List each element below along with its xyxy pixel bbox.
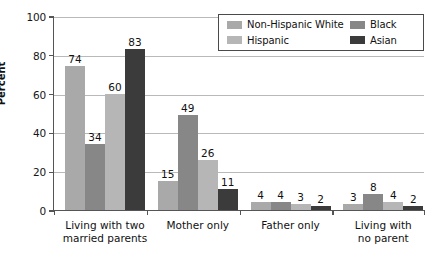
legend-entry: Black [350,19,433,30]
x-axis-category-label-line: Living with [323,219,436,232]
bar-value-label: 60 [108,82,121,93]
x-axis-tick-mark [240,210,241,215]
y-axis-tick-mark [49,133,54,134]
bar: 26 [198,160,218,210]
y-axis-tick-mark [49,172,54,173]
legend-label: Asian [370,35,397,46]
bar: 83 [125,49,145,210]
bar: 4 [383,202,403,210]
legend-swatch [350,21,365,29]
gridline [54,56,424,57]
y-axis-tick-label: 80 [8,50,46,62]
bar-value-label: 4 [257,190,264,201]
y-axis-title: Percent [0,42,7,126]
bar-value-label: 4 [277,190,284,201]
y-axis-tick-mark [49,16,54,17]
bar-value-label: 34 [88,132,101,143]
legend-swatch [350,36,365,44]
bar-value-label: 11 [221,177,234,188]
y-axis-tick-label: 0 [8,205,46,217]
bar: 8 [363,194,383,210]
bar-value-label: 8 [370,182,377,193]
y-axis-tick-label: 20 [8,166,46,178]
bar-value-label: 26 [201,148,214,159]
bar: 11 [218,189,238,210]
bar-value-label: 49 [181,103,194,114]
x-axis-tick-mark [147,210,148,215]
bar: 34 [85,144,105,210]
x-axis-tick-mark [54,210,55,215]
y-axis-tick-label: 40 [8,127,46,139]
bar-value-label: 15 [161,169,174,180]
bar-value-label: 2 [410,194,417,205]
legend-label: Black [370,19,397,30]
legend-swatch [227,36,242,44]
x-axis-tick-mark [424,210,425,215]
bar: 4 [251,202,271,210]
bar-value-label: 2 [317,194,324,205]
x-axis-tick-mark [332,210,333,215]
bar: 60 [105,94,125,210]
bar: 15 [158,181,178,210]
bar-value-label: 3 [297,192,304,203]
bar: 3 [291,204,311,210]
bar: 74 [65,66,85,210]
legend-entry: Non-Hispanic White [227,19,350,30]
legend-label: Non-Hispanic White [247,19,344,30]
x-axis-category-label: Living withno parent [323,219,436,244]
legend-swatch [227,21,242,29]
bar-value-label: 4 [390,190,397,201]
bar-value-label: 3 [350,192,357,203]
x-axis-category-label-line: no parent [323,232,436,245]
y-axis-tick-mark [49,94,54,95]
bar: 4 [271,202,291,210]
y-axis-tick-label: 100 [8,11,46,23]
y-axis-tick-mark [49,55,54,56]
bar: 2 [403,206,423,210]
bar: 2 [311,206,331,210]
chart-legend: Non-Hispanic WhiteBlackHispanicAsian [218,14,424,51]
legend-entry: Asian [350,35,433,46]
bar-chart: Percent 020406080100 7434608315492611443… [0,0,436,257]
bar: 49 [178,115,198,210]
x-axis-category-label-line: married parents [45,232,165,245]
legend-entry: Hispanic [227,35,350,46]
y-axis-tick-label: 60 [8,89,46,101]
bar-value-label: 74 [68,54,81,65]
bar-value-label: 83 [128,37,141,48]
legend-label: Hispanic [247,35,289,46]
bar: 3 [343,204,363,210]
